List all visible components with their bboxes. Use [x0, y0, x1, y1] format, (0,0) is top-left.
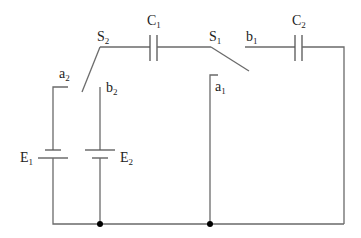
label-a2: a2	[59, 66, 70, 83]
battery-e2	[85, 150, 115, 158]
label-b1: b1	[246, 29, 258, 46]
circuit-diagram: S2 C1 S1 b1 C2 a2 b2 a1 E1 E2	[0, 0, 361, 238]
capacitor-c1	[150, 35, 157, 61]
label-b2: b2	[106, 80, 118, 97]
junction-node	[207, 221, 213, 227]
wire-a2-e1	[53, 87, 68, 150]
label-c1: C1	[147, 13, 161, 30]
junction-node	[97, 221, 103, 227]
label-c2: C2	[292, 13, 306, 30]
battery-e1	[38, 150, 68, 158]
wire-e1-bottom	[53, 158, 344, 224]
capacitor-c2	[295, 35, 302, 61]
wire-c2-right	[302, 47, 344, 224]
label-s2: S2	[97, 29, 109, 46]
label-e1: E1	[20, 150, 33, 167]
wire-a1-bottom	[210, 75, 218, 224]
label-e2: E2	[120, 150, 133, 167]
switch-s2-blade[interactable]	[82, 47, 100, 92]
label-s1: S1	[209, 29, 221, 46]
label-a1: a1	[215, 79, 226, 96]
switch-s1-blade[interactable]	[211, 47, 249, 71]
